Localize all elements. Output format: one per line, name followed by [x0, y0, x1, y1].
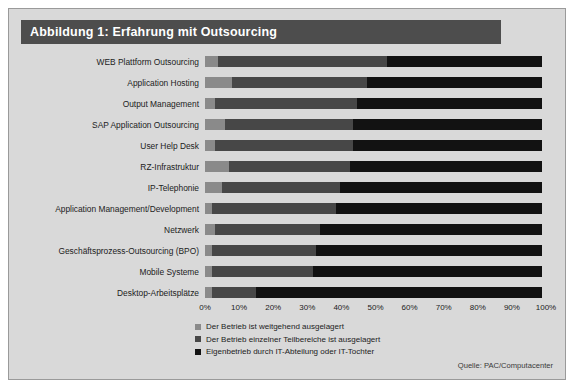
bar-segment-series-1: [205, 287, 212, 298]
page-title: Abbildung 1: Erfahrung mit Outsourcing: [21, 25, 277, 39]
bar-segment-series-3: [336, 203, 542, 214]
bar-segment-series-1: [205, 140, 215, 151]
chart-plot-area: WEB Plattform OutsourcingApplication Hos…: [27, 51, 555, 303]
bar-segment-series-2: [212, 245, 316, 256]
bar-segment-series-3: [256, 287, 542, 298]
x-axis-tick-label: 50%: [367, 303, 383, 312]
bar-segment-series-1: [205, 266, 212, 277]
x-axis-tick-label: 80%: [470, 303, 486, 312]
bar-segment-series-3: [316, 245, 542, 256]
legend-swatch-icon: [195, 324, 201, 330]
bar-segment-series-3: [357, 98, 542, 109]
category-label: Desktop-Arbeitsplätze: [27, 288, 205, 298]
bar-segment-series-1: [205, 182, 222, 193]
category-label: SAP Application Outsourcing: [27, 120, 205, 130]
bar-segment-series-3: [313, 266, 542, 277]
stacked-bar: [205, 203, 542, 214]
chart-bar-row: Desktop-Arbeitsplätze: [27, 282, 555, 303]
chart-bar-row: Application Management/Development: [27, 198, 555, 219]
bar-segment-series-2: [222, 182, 340, 193]
bar-segment-series-2: [218, 56, 387, 67]
x-axis-tick-label: 40%: [333, 303, 349, 312]
legend-label: Der Betrieb ist weitgehend ausgelagert: [206, 322, 344, 331]
stacked-bar: [205, 161, 542, 172]
category-label: Application Hosting: [27, 78, 205, 88]
category-label: Geschäftsprozess-Outsourcing (BPO): [27, 246, 205, 256]
x-axis-tick-label: 30%: [299, 303, 315, 312]
x-axis-tick-label: 10%: [231, 303, 247, 312]
legend-item: Der Betrieb einzelner Teilbereiche ist a…: [195, 334, 495, 346]
chart-bar-row: Geschäftsprozess-Outsourcing (BPO): [27, 240, 555, 261]
category-label: IP-Telephonie: [27, 183, 205, 193]
x-axis-tick-label: 60%: [402, 303, 418, 312]
bar-segment-series-2: [215, 140, 353, 151]
stacked-bar: [205, 245, 542, 256]
chart-legend: Der Betrieb ist weitgehend ausgelagertDe…: [195, 321, 495, 359]
category-label: WEB Plattform Outsourcing: [27, 57, 205, 67]
bar-segment-series-3: [353, 140, 542, 151]
chart-bar-row: Output Management: [27, 93, 555, 114]
bar-segment-series-2: [215, 224, 319, 235]
bar-segment-series-2: [232, 77, 367, 88]
stacked-bar: [205, 140, 542, 151]
bar-segment-series-2: [215, 98, 357, 109]
bar-segment-series-3: [340, 182, 542, 193]
bar-segment-series-3: [353, 119, 542, 130]
stacked-bar: [205, 182, 542, 193]
legend-label: Der Betrieb einzelner Teilbereiche ist a…: [206, 335, 380, 344]
stacked-bar: [205, 98, 542, 109]
bar-segment-series-1: [205, 119, 225, 130]
stacked-bar: [205, 287, 542, 298]
bar-segment-series-2: [212, 266, 313, 277]
chart-bar-row: SAP Application Outsourcing: [27, 114, 555, 135]
bar-segment-series-2: [212, 287, 256, 298]
x-axis-tick-label: 100%: [536, 303, 556, 312]
x-axis: 0%10%20%30%40%50%60%70%80%90%100%: [205, 303, 546, 317]
category-label: Mobile Systeme: [27, 267, 205, 277]
stacked-bar: [205, 56, 542, 67]
bar-segment-series-3: [320, 224, 542, 235]
chart-bar-row: Mobile Systeme: [27, 261, 555, 282]
bar-segment-series-1: [205, 161, 229, 172]
category-label: RZ-Infrastruktur: [27, 162, 205, 172]
category-label: Netzwerk: [27, 225, 205, 235]
chart-bar-row: WEB Plattform Outsourcing: [27, 51, 555, 72]
bar-segment-series-1: [205, 245, 212, 256]
stacked-bar: [205, 77, 542, 88]
source-note: Quelle: PAC/Computacenter: [458, 361, 553, 370]
chart-bar-row: RZ-Infrastruktur: [27, 156, 555, 177]
stacked-bar: [205, 119, 542, 130]
legend-swatch-icon: [195, 349, 201, 355]
legend-swatch-icon: [195, 336, 201, 342]
bar-segment-series-1: [205, 224, 215, 235]
bar-segment-series-3: [367, 77, 542, 88]
bar-segment-series-2: [225, 119, 353, 130]
bar-segment-series-1: [205, 77, 232, 88]
x-axis-tick-label: 70%: [436, 303, 452, 312]
figure-title-bar: Abbildung 1: Erfahrung mit Outsourcing: [21, 20, 501, 44]
x-axis-tick-label: 20%: [265, 303, 281, 312]
bar-segment-series-2: [229, 161, 350, 172]
chart-bar-row: Netzwerk: [27, 219, 555, 240]
bar-segment-series-2: [212, 203, 337, 214]
bar-segment-series-3: [387, 56, 542, 67]
legend-item: Eigenbetrieb durch IT-Abteilung oder IT-…: [195, 346, 495, 358]
legend-item: Der Betrieb ist weitgehend ausgelagert: [195, 321, 495, 333]
x-axis-tick-label: 0%: [199, 303, 211, 312]
category-label: Application Management/Development: [27, 204, 205, 214]
stacked-bar: [205, 266, 542, 277]
x-axis-tick-label: 90%: [504, 303, 520, 312]
stacked-bar: [205, 224, 542, 235]
bar-segment-series-1: [205, 203, 212, 214]
bar-segment-series-1: [205, 56, 218, 67]
bar-segment-series-3: [350, 161, 542, 172]
legend-label: Eigenbetrieb durch IT-Abteilung oder IT-…: [206, 347, 374, 356]
chart-bar-row: IP-Telephonie: [27, 177, 555, 198]
bar-segment-series-1: [205, 98, 215, 109]
chart-bar-row: User Help Desk: [27, 135, 555, 156]
chart-bar-row: Application Hosting: [27, 72, 555, 93]
category-label: Output Management: [27, 99, 205, 109]
category-label: User Help Desk: [27, 141, 205, 151]
figure-panel: Abbildung 1: Erfahrung mit Outsourcing W…: [8, 8, 566, 380]
